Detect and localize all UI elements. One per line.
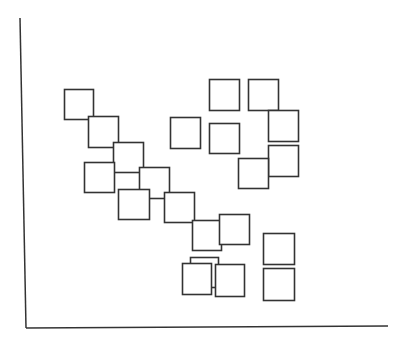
square-markers: [65, 80, 299, 301]
square-marker: [85, 163, 115, 193]
square-marker: [210, 124, 240, 154]
y-axis: [20, 18, 26, 328]
square-marker: [210, 80, 240, 111]
square-marker: [269, 146, 299, 177]
square-marker: [249, 80, 279, 111]
square-marker: [239, 159, 269, 189]
square-marker: [264, 234, 295, 265]
square-marker: [165, 193, 195, 223]
scatter-diagram: [0, 0, 409, 345]
square-marker: [193, 221, 222, 251]
square-marker: [65, 90, 94, 120]
square-marker: [119, 190, 150, 220]
square-marker: [220, 215, 250, 245]
square-marker: [171, 118, 201, 149]
square-marker: [269, 111, 299, 142]
square-marker: [183, 264, 212, 295]
square-marker: [216, 265, 245, 297]
square-marker: [264, 269, 295, 301]
x-axis: [26, 326, 388, 328]
